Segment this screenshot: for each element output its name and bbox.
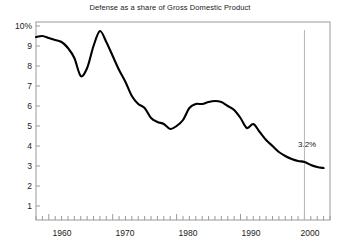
plot-area [0, 0, 340, 249]
y-tick-marks [36, 26, 40, 206]
defense-gdp-chart: Defense as a share of Gross Domestic Pro… [0, 0, 340, 249]
data-line-defense-share [36, 31, 324, 168]
x-tick-marks [36, 214, 330, 220]
